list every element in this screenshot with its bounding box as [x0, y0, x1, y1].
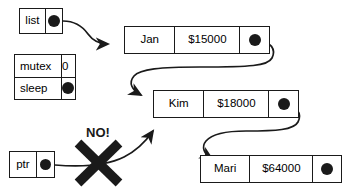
- x-cross-mark-icon: [78, 143, 119, 183]
- diagram-canvas: list mutex 0 sleep ptr Jan $15000: [0, 0, 347, 194]
- forbidden-label: NO!: [86, 125, 110, 140]
- forbidden-cross-mark-layer: [0, 0, 347, 194]
